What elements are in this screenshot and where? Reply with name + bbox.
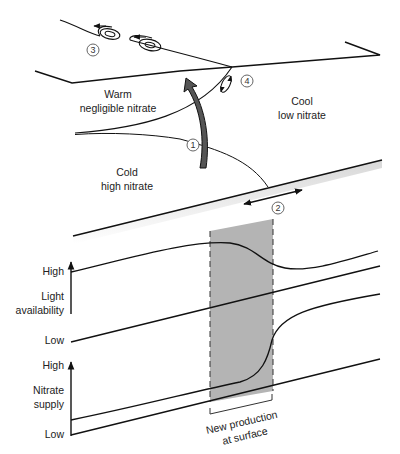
svg-text:3: 3	[90, 45, 95, 55]
svg-text:1: 1	[190, 140, 195, 150]
cool-region-sublabel: low nitrate	[278, 109, 326, 121]
svg-text:2: 2	[275, 203, 280, 213]
front-boundary	[75, 67, 268, 187]
cold-region-label: Cold	[116, 166, 138, 178]
cross-front-circulation-icon	[219, 74, 234, 94]
nitrate-low-label: Low	[45, 428, 65, 440]
nitrate-high-label: High	[42, 359, 64, 371]
production-label-group: New production at surface	[205, 408, 282, 450]
frontal-upwelling-diagram: 3 4 1 Warm negligible nitrate Cool low n…	[0, 0, 400, 454]
eddy-icon	[94, 26, 121, 41]
marker-1: 1	[187, 139, 199, 151]
marker-4: 4	[241, 75, 253, 87]
upwelling-arrow-icon	[184, 78, 207, 168]
light-axis-title-2: availability	[16, 304, 65, 316]
new-production-zone	[210, 219, 273, 402]
light-high-label: High	[42, 265, 64, 277]
marker-2: 2	[272, 202, 284, 214]
marker-3: 3	[87, 44, 99, 56]
nitrate-axis-title: Nitrate	[33, 384, 64, 396]
light-axis-title: Light	[41, 290, 64, 302]
cool-region-label: Cool	[291, 95, 313, 107]
light-low-label: Low	[45, 334, 65, 346]
warm-region-label: Warm	[104, 88, 132, 100]
warm-region-sublabel: negligible nitrate	[80, 102, 157, 114]
nitrate-axis-title-2: supply	[34, 398, 65, 410]
cold-region-sublabel: high nitrate	[101, 180, 153, 192]
svg-text:4: 4	[244, 76, 249, 86]
